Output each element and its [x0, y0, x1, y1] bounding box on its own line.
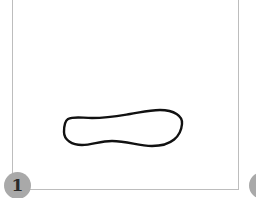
step-number-badge: 1 — [4, 172, 31, 198]
freehand-outline-icon — [0, 0, 256, 198]
step-number-label: 1 — [12, 175, 24, 195]
